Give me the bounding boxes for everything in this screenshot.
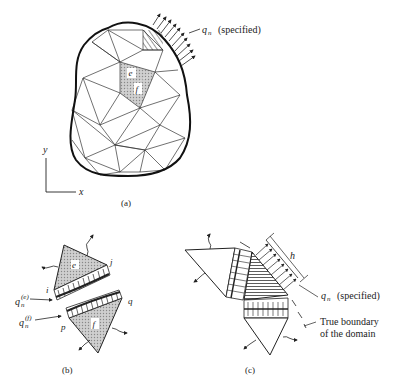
mesh-lines xyxy=(72,30,185,175)
figure-canvas: q n (specified) e f y x (a) xyxy=(0,0,394,389)
flux-f-sub: n xyxy=(25,322,29,330)
caption-c: (c) xyxy=(245,365,255,375)
node-q-label: q xyxy=(128,296,133,306)
flux-e-sup: (e) xyxy=(21,293,29,301)
flux-f-q: q xyxy=(19,317,24,328)
qn-note-c: (specified) xyxy=(337,290,380,302)
qn-pointer-c xyxy=(299,285,318,297)
panel-a-mesh: q n (specified) e f y x (a) xyxy=(42,14,261,208)
qn-label-c: q xyxy=(321,290,326,301)
panel-c: h q n (specified) True boundary of the d… xyxy=(185,233,380,375)
c-center-triangle xyxy=(244,252,288,300)
panel-b: e f i j p q q n (e) q n (f) (b) xyxy=(15,235,133,375)
axis-y-label: y xyxy=(42,144,48,155)
qn-note-a: (specified) xyxy=(218,24,261,36)
c-bottom-triangle xyxy=(244,318,288,355)
boundary-label-1: True boundary xyxy=(320,316,379,327)
xy-axes xyxy=(46,158,76,192)
c-bottom-flux-strip xyxy=(244,298,288,318)
caption-a: (a) xyxy=(121,198,131,208)
caption-b: (b) xyxy=(62,365,73,375)
h-label: h xyxy=(290,250,295,261)
flux-e-pointer xyxy=(30,299,52,300)
b-element-e-label: e xyxy=(72,260,76,270)
qn-sub-a: n xyxy=(208,29,212,37)
flux-f-pointer xyxy=(35,316,61,320)
flux-f-sup: (f) xyxy=(25,314,32,322)
qn-sub-c: n xyxy=(327,295,331,303)
flux-e-q: q xyxy=(15,296,20,307)
node-p-label: p xyxy=(60,322,66,332)
boundary-pointer xyxy=(304,322,316,326)
qn-label-a: q xyxy=(202,24,207,35)
node-j-label: j xyxy=(109,257,113,267)
flux-e-sub: n xyxy=(21,301,25,309)
node-i-label: i xyxy=(46,285,49,295)
boundary-label-2: of the domain xyxy=(320,328,376,339)
axis-x-label: x xyxy=(78,186,84,197)
element-e-label: e xyxy=(129,68,133,78)
